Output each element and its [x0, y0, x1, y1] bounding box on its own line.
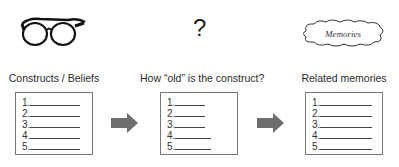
right-arrow-icon	[111, 113, 139, 133]
cloud-icon: Memories	[300, 17, 386, 49]
question-mark-icon: ?	[193, 14, 206, 42]
column-label-constructs: Constructs / Beliefs	[0, 72, 108, 84]
column-label-memories: Related memories	[290, 72, 398, 84]
cloud-label: Memories	[324, 29, 361, 39]
list-item: 5.	[22, 140, 80, 152]
glasses-icon	[18, 16, 88, 52]
column-label-age: How “old” is the construct?	[140, 72, 260, 84]
list-item: 5.	[167, 140, 211, 152]
right-arrow-icon	[257, 113, 285, 133]
list-item: 5.	[312, 140, 372, 152]
constructs-list-box: 1. 2. 3. 4. 5.	[15, 92, 93, 155]
age-list-box: 1. 2. 3. 4. 5.	[160, 92, 238, 155]
memories-list-box: 1. 2. 3. 4. 5.	[305, 92, 383, 155]
